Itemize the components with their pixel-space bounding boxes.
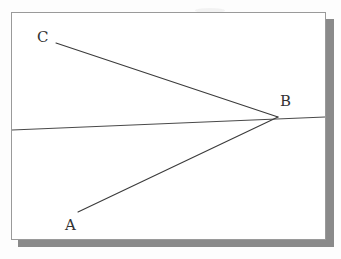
horizontal-reference-line [12,117,325,130]
diagram-canvas [0,0,341,259]
point-label-b: B [280,94,292,109]
segment-AB [78,117,278,212]
scanned-figure-page: C B A [0,0,341,259]
segment-CB [56,43,278,117]
point-label-a: A [65,218,76,233]
point-label-c: C [37,30,49,45]
